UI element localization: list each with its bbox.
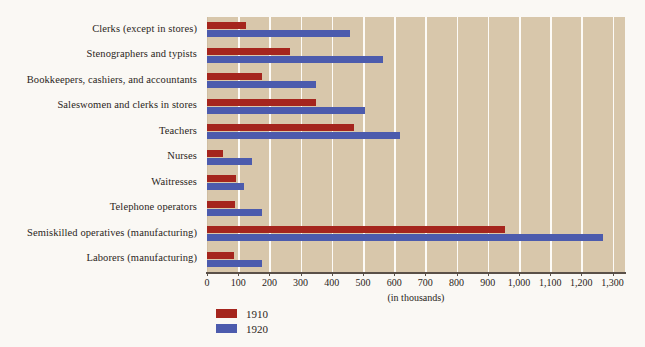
category-label: Nurses	[167, 151, 197, 162]
bar-1910-7	[207, 201, 235, 208]
x-tick-1300	[613, 272, 614, 276]
x-tick-1100	[550, 272, 551, 276]
bar-1910-3	[207, 99, 316, 106]
bar-1910-5	[207, 150, 223, 157]
legend-swatch-icon-1920	[216, 324, 237, 333]
x-tick-label: 600	[387, 277, 402, 288]
category-label: Semiskilled operatives (manufacturing)	[27, 228, 197, 239]
bar-1920-6	[207, 183, 244, 190]
legend-label-1920: 1920	[246, 323, 268, 335]
x-tick-300	[301, 272, 302, 276]
x-tick-label: 1,300	[601, 277, 624, 288]
bar-1910-6	[207, 175, 236, 182]
x-tick-label: 900	[480, 277, 495, 288]
x-tick-600	[394, 272, 395, 276]
x-tick-800	[457, 272, 458, 276]
x-tick-label: 300	[293, 277, 308, 288]
x-tick-0	[207, 272, 208, 276]
bar-1920-5	[207, 158, 252, 165]
x-tick-label: 100	[231, 277, 246, 288]
category-label: Teachers	[159, 126, 197, 137]
bar-1920-7	[207, 209, 262, 216]
x-tick-label: 400	[324, 277, 339, 288]
bar-1910-8	[207, 226, 505, 233]
category-label: Stenographers and typists	[87, 49, 197, 60]
category-axis-labels: Clerks (except in stores)Stenographers a…	[0, 17, 202, 272]
legend-label-1910: 1910	[246, 308, 268, 320]
x-tick-400	[332, 272, 333, 276]
category-label: Bookkeepers, cashiers, and accountants	[27, 75, 197, 86]
x-tick-label: 700	[418, 277, 433, 288]
x-tick-700	[425, 272, 426, 276]
x-tick-label: 0	[205, 277, 210, 288]
bar-1920-8	[207, 234, 603, 241]
x-tick-100	[238, 272, 239, 276]
legend-swatch-icon-1910	[216, 309, 237, 318]
x-tick-500	[363, 272, 364, 276]
x-tick-200	[269, 272, 270, 276]
bar-1920-9	[207, 260, 262, 267]
bar-1910-2	[207, 73, 262, 80]
bar-1920-2	[207, 81, 316, 88]
category-label: Laborers (manufacturing)	[86, 253, 197, 264]
category-label: Saleswomen and clerks in stores	[57, 100, 197, 111]
bar-1920-0	[207, 30, 350, 37]
x-tick-label: 1,100	[539, 277, 562, 288]
bar-1910-9	[207, 252, 234, 259]
bar-1910-0	[207, 22, 246, 29]
legend-item-1910[interactable]: 1910	[216, 306, 268, 321]
bars-layer	[207, 17, 625, 272]
plot-area	[207, 17, 625, 272]
bar-1910-1	[207, 48, 290, 55]
x-tick-1200	[581, 272, 582, 276]
legend-item-1920[interactable]: 1920	[216, 321, 268, 336]
category-label: Clerks (except in stores)	[92, 24, 197, 35]
legend: 1910 1920	[216, 306, 268, 336]
bar-1910-4	[207, 124, 354, 131]
bar-1920-4	[207, 132, 400, 139]
bar-1920-1	[207, 56, 383, 63]
bar-chart: Clerks (except in stores)Stenographers a…	[0, 0, 645, 347]
x-tick-label: 1,200	[570, 277, 593, 288]
x-tick-label: 1,000	[508, 277, 531, 288]
x-axis-caption: (in thousands)	[207, 292, 625, 303]
bar-1920-3	[207, 107, 365, 114]
x-tick-label: 500	[355, 277, 370, 288]
x-tick-label: 800	[449, 277, 464, 288]
x-tick-1000	[519, 272, 520, 276]
x-tick-900	[488, 272, 489, 276]
category-label: Waitresses	[151, 177, 197, 188]
category-label: Telephone operators	[110, 202, 197, 213]
x-tick-label: 200	[262, 277, 277, 288]
